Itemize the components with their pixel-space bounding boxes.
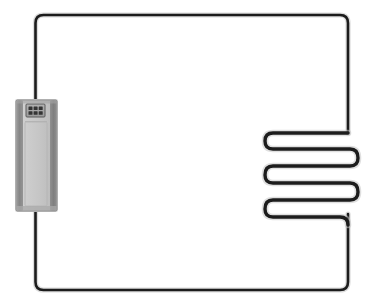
wire-top-path-halo <box>36 15 349 133</box>
heating-coil-group <box>265 133 358 225</box>
wire-bottom-path-halo <box>36 211 349 290</box>
battery-side-band-right <box>50 101 57 211</box>
circuit-diagram-figure: Simple electric circuit: battery connect… <box>0 0 377 304</box>
heating-coil-halo <box>265 133 358 225</box>
wire-top-path <box>36 15 349 133</box>
battery-top-edge <box>17 101 57 104</box>
battery-group <box>15 99 58 212</box>
battery-terminal-plate <box>26 104 45 117</box>
wire-loop-group <box>36 15 349 290</box>
circuit-diagram-canvas <box>0 0 377 304</box>
battery-bottom-edge <box>17 206 57 211</box>
wire-bottom-path <box>36 211 349 290</box>
battery-side-band-left <box>17 101 24 211</box>
